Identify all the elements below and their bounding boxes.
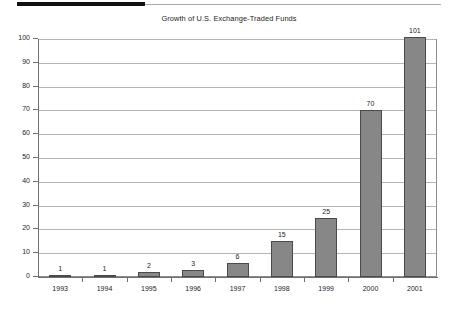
y-axis-tick xyxy=(33,252,38,253)
y-axis-tick-label: 50 xyxy=(8,153,30,160)
y-axis-tick-label: 60 xyxy=(8,129,30,136)
bar xyxy=(360,110,382,277)
x-axis-tick-label: 2000 xyxy=(349,285,393,292)
x-axis-tick xyxy=(393,278,394,282)
x-axis-line xyxy=(38,277,438,278)
bar xyxy=(49,275,71,277)
x-axis-tick xyxy=(215,278,216,282)
x-axis-tick-label: 1993 xyxy=(38,285,82,292)
x-axis-tick-label: 1997 xyxy=(216,285,260,292)
y-axis-tick xyxy=(33,228,38,229)
y-axis-tick-label: 0 xyxy=(8,272,30,279)
y-axis-tick xyxy=(33,62,38,63)
y-axis-tick-label: 70 xyxy=(8,105,30,112)
bar xyxy=(94,275,116,277)
bar xyxy=(138,272,160,277)
bar-chart: Growth of U.S. Exchange-Traded Funds 010… xyxy=(0,0,458,311)
bar xyxy=(271,241,293,277)
y-axis-tick-label: 40 xyxy=(8,177,30,184)
x-axis-tick xyxy=(171,278,172,282)
bar-value-label: 25 xyxy=(306,208,346,215)
bar-value-label: 70 xyxy=(351,100,391,107)
bar-value-label: 1 xyxy=(40,265,80,272)
y-axis-tick xyxy=(33,109,38,110)
x-axis-tick xyxy=(260,278,261,282)
gridline xyxy=(39,87,436,88)
x-axis-tick-label: 1998 xyxy=(260,285,304,292)
y-axis-tick-label: 80 xyxy=(8,82,30,89)
x-axis-tick-label: 1995 xyxy=(127,285,171,292)
x-axis-tick-label: 1996 xyxy=(171,285,215,292)
x-axis-tick xyxy=(304,278,305,282)
gridline xyxy=(39,39,436,40)
bar-value-label: 3 xyxy=(173,260,213,267)
bar xyxy=(404,37,426,277)
bar xyxy=(227,263,249,277)
bar xyxy=(315,218,337,278)
y-axis-tick-label: 20 xyxy=(8,224,30,231)
bar-value-label: 2 xyxy=(129,262,169,269)
bar-value-label: 6 xyxy=(218,253,258,260)
gridline xyxy=(39,63,436,64)
bar-value-label: 101 xyxy=(395,27,435,34)
y-axis-line xyxy=(38,39,39,278)
y-axis-tick xyxy=(33,38,38,39)
x-axis-tick-label: 2001 xyxy=(393,285,437,292)
x-axis-tick xyxy=(82,278,83,282)
x-axis-tick-label: 1999 xyxy=(304,285,348,292)
y-axis-tick xyxy=(33,205,38,206)
bar-value-label: 15 xyxy=(262,231,302,238)
x-axis-tick-label: 1994 xyxy=(83,285,127,292)
bar-value-label: 1 xyxy=(85,265,125,272)
x-axis-tick xyxy=(348,278,349,282)
y-axis-tick xyxy=(33,276,38,277)
chart-title: Growth of U.S. Exchange-Traded Funds xyxy=(0,14,458,23)
y-axis-tick xyxy=(33,133,38,134)
x-axis-tick xyxy=(127,278,128,282)
y-axis-tick-label: 30 xyxy=(8,201,30,208)
y-axis-tick-label: 90 xyxy=(8,58,30,65)
bar xyxy=(182,270,204,277)
y-axis-tick xyxy=(33,86,38,87)
y-axis-tick-label: 10 xyxy=(8,248,30,255)
y-axis-tick xyxy=(33,181,38,182)
y-axis-tick xyxy=(33,157,38,158)
y-axis-tick-label: 100 xyxy=(8,34,30,41)
